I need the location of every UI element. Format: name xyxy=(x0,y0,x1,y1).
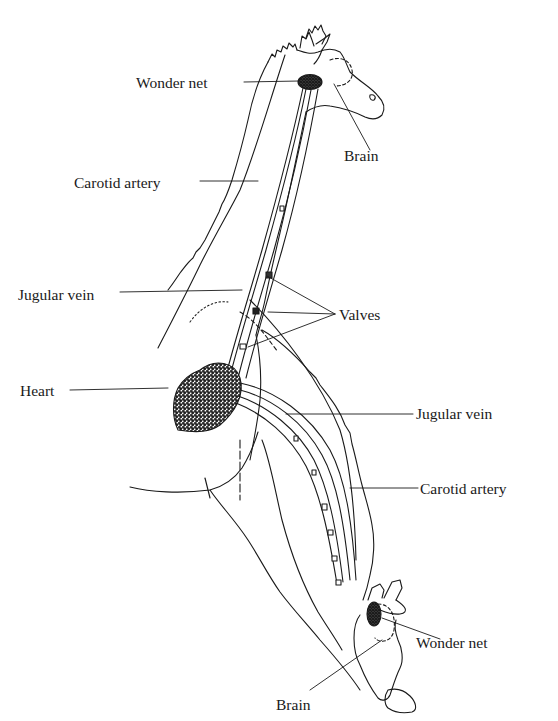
label-wonder-net-top: Wonder net xyxy=(136,75,208,91)
label-jugular-vein-top: Jugular vein xyxy=(18,287,94,303)
heart xyxy=(174,363,242,432)
label-jugular-vein-bottom: Jugular vein xyxy=(416,406,492,422)
label-valves: Valves xyxy=(339,307,380,323)
label-carotid-artery-top: Carotid artery xyxy=(74,175,161,191)
label-heart: Heart xyxy=(20,383,54,399)
leader-lines xyxy=(70,81,440,690)
giraffe-illustration xyxy=(0,0,558,721)
upper-vessels xyxy=(226,88,318,378)
giraffe-circulation-diagram: Wonder net Brain Carotid artery Jugular … xyxy=(0,0,558,721)
label-brain-bottom: Brain xyxy=(276,697,310,713)
upper-neck xyxy=(158,55,306,352)
upper-head xyxy=(268,25,384,119)
label-wonder-net-bottom: Wonder net xyxy=(416,635,488,651)
label-carotid-artery-bottom: Carotid artery xyxy=(420,481,507,497)
label-brain-top: Brain xyxy=(344,148,378,164)
